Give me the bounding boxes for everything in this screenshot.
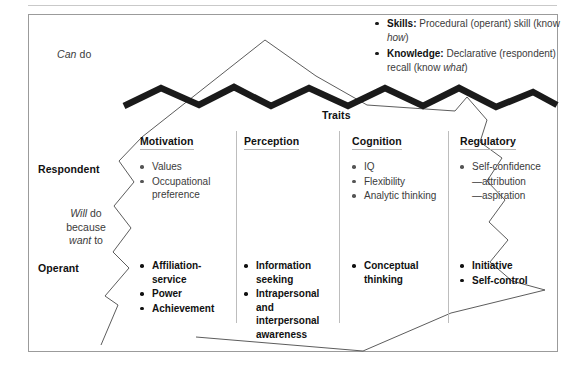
definition-text-after: ) xyxy=(464,62,467,73)
row-label-operant: Operant xyxy=(38,262,79,274)
iceberg-competency-figure: Can do Traits Skills: Procedural (operan… xyxy=(0,0,569,365)
list-item: Initiative xyxy=(460,259,552,273)
list-item-label: Self-confidence xyxy=(472,161,541,172)
list-item: IQ xyxy=(352,160,444,174)
column-header: Regulatory xyxy=(460,135,516,150)
bullet-icon xyxy=(352,194,356,198)
list-item-label: Flexibility xyxy=(364,176,405,187)
list-item-label: Power xyxy=(152,288,182,299)
because-text: because xyxy=(66,221,106,233)
column-divider xyxy=(236,131,237,323)
want-italic: want xyxy=(69,234,91,246)
bullet-icon xyxy=(140,180,144,184)
will-italic: Will xyxy=(70,207,87,219)
list-item: Achievement xyxy=(140,302,232,316)
definition-text-after: ) xyxy=(405,32,408,43)
list-item-label: Information seeking xyxy=(256,260,311,285)
list-item: Flexibility xyxy=(352,175,444,189)
column-divider xyxy=(448,131,449,323)
list-subitem: —aspiration xyxy=(460,189,552,203)
list-item-label: Self-control xyxy=(472,275,528,286)
definition-italic: what xyxy=(443,62,464,73)
list-item: Intrapersonal and interpersonal awarenes… xyxy=(244,287,336,341)
list-item-label: Values xyxy=(152,161,182,172)
bullet-icon xyxy=(352,180,356,184)
list-item: Conceptual thinking xyxy=(352,259,444,286)
list-item-label: Analytic thinking xyxy=(364,190,436,201)
list-item-label: Achievement xyxy=(152,303,214,314)
will-do-label: Will do because want to xyxy=(47,207,125,248)
definition-skills: Skills: Procedural (operant) skill (know… xyxy=(374,17,564,44)
list-item: Self-confidence xyxy=(460,160,552,174)
will-rest: do xyxy=(87,207,102,219)
bullet-icon xyxy=(140,292,144,296)
can-do-rest: do xyxy=(77,48,92,60)
definition-italic: how xyxy=(387,32,405,43)
bullet-icon xyxy=(352,264,356,268)
bullet-icon xyxy=(460,264,464,268)
cell-operant-perception: Information seeking Intrapersonal and in… xyxy=(244,259,336,342)
bullet-icon xyxy=(244,264,248,268)
column-header: Cognition xyxy=(352,135,402,150)
bullet-icon xyxy=(140,165,144,169)
list-item-label: Initiative xyxy=(472,260,513,271)
bullet-icon xyxy=(140,307,144,311)
bullet-icon xyxy=(244,292,248,296)
list-item-label: Intrapersonal and interpersonal awarenes… xyxy=(256,288,319,340)
bullet-icon xyxy=(375,22,379,26)
definitions-list: Skills: Procedural (operant) skill (know… xyxy=(374,17,564,77)
cell-respondent-motivation: Values Occupational preference xyxy=(140,160,232,202)
can-do-label: Can do xyxy=(57,48,91,60)
column-cognition: Cognition IQ Flexibility Analytic thinki… xyxy=(352,131,444,204)
list-item-label: Affiliation-service xyxy=(152,260,201,285)
list-item: Occupational preference xyxy=(140,175,232,202)
competency-columns: Motivation Values Occupational preferenc… xyxy=(140,131,550,336)
bullet-icon xyxy=(352,165,356,169)
can-do-italic: Can xyxy=(57,48,77,60)
column-header: Perception xyxy=(244,135,299,150)
column-header: Motivation xyxy=(140,135,194,150)
list-item-label: Conceptual thinking xyxy=(364,260,418,285)
list-subitem-label: —aspiration xyxy=(472,190,525,201)
row-label-respondent: Respondent xyxy=(38,163,100,175)
list-subitem-label: —attribution xyxy=(472,176,526,187)
list-item-label: Occupational preference xyxy=(152,176,210,201)
list-subitem: —attribution xyxy=(460,175,552,189)
list-item-label: IQ xyxy=(364,161,375,172)
list-item: Affiliation-service xyxy=(140,259,232,286)
definition-knowledge: Knowledge: Declarative (respondent) reca… xyxy=(374,47,564,74)
column-perception: Perception Information seeking Intrapers… xyxy=(244,131,336,160)
bullet-icon xyxy=(460,279,464,283)
definition-term: Knowledge: xyxy=(387,48,444,59)
cell-operant-motivation: Affiliation-service Power Achievement xyxy=(140,259,232,316)
list-item: Self-control xyxy=(460,274,552,288)
cell-respondent-cognition: IQ Flexibility Analytic thinking xyxy=(352,160,444,203)
list-item: Information seeking xyxy=(244,259,336,286)
bullet-icon xyxy=(460,165,464,169)
list-item: Analytic thinking xyxy=(352,189,444,203)
cell-operant-cognition: Conceptual thinking xyxy=(352,259,444,287)
list-item: Power xyxy=(140,287,232,301)
want-rest: to xyxy=(91,234,103,246)
traits-label: Traits xyxy=(322,109,351,121)
cell-respondent-regulatory: Self-confidence —attribution —aspiration xyxy=(460,160,552,203)
bullet-icon xyxy=(375,52,379,56)
definition-text-before: Procedural (operant) skill (know xyxy=(416,18,559,29)
cell-operant-regulatory: Initiative Self-control xyxy=(460,259,552,288)
top-divider-rule xyxy=(28,5,557,6)
column-divider xyxy=(339,131,340,323)
column-motivation: Motivation Values Occupational preferenc… xyxy=(140,131,232,203)
column-regulatory: Regulatory Self-confidence —attribution … xyxy=(460,131,552,204)
bullet-icon xyxy=(140,264,144,268)
list-item: Values xyxy=(140,160,232,174)
definition-term: Skills: xyxy=(387,18,416,29)
